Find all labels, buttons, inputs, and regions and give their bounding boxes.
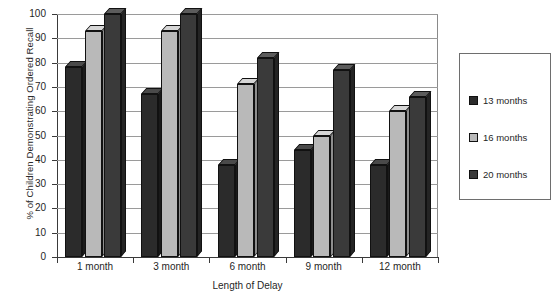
x-axis-title: Length of Delay (57, 280, 438, 291)
bar-face (104, 14, 121, 257)
y-tick-label-10: 10 (12, 226, 46, 237)
bar-side (197, 8, 202, 257)
bar (333, 70, 350, 257)
y-tick-label-100: 100 (12, 8, 46, 19)
bar-side (121, 8, 126, 257)
y-tick-label-0: 0 (12, 251, 46, 262)
bar (409, 97, 426, 257)
bar-group (141, 14, 197, 257)
bar-group (218, 14, 274, 257)
bar (294, 150, 311, 257)
y-tick-mark-100 (52, 14, 57, 15)
bar (218, 165, 235, 257)
bar (85, 31, 102, 257)
legend-swatch (469, 96, 478, 105)
bar-face (294, 150, 311, 257)
bar-side (274, 52, 279, 257)
y-tick-mark-70 (52, 87, 57, 88)
bar-face (65, 67, 82, 257)
bar (161, 31, 178, 257)
bar-group (65, 14, 121, 257)
y-tick-mark-20 (52, 208, 57, 209)
bar (180, 14, 197, 257)
bar-face (389, 111, 406, 257)
y-tick-label-50: 50 (12, 129, 46, 140)
bar-face (218, 165, 235, 257)
bar-face (257, 58, 274, 257)
bar-side (426, 91, 431, 257)
y-tick-label-20: 20 (12, 202, 46, 213)
bar-face (313, 136, 330, 258)
legend-label: 16 months (483, 132, 527, 143)
bar (389, 111, 406, 257)
bar (237, 84, 254, 257)
plot-area (57, 14, 438, 257)
x-tick-label-4: 12 month (355, 261, 445, 272)
bar-chart-figure: % of Children Demonstrating Ordered Reca… (0, 0, 560, 300)
bar-face (141, 94, 158, 257)
bar-side (350, 64, 355, 257)
y-tick-mark-80 (52, 63, 57, 64)
bar-face (161, 31, 178, 257)
bar (370, 165, 387, 257)
legend-swatch (469, 133, 478, 142)
y-tick-mark-90 (52, 38, 57, 39)
bar (104, 14, 121, 257)
legend: 13 months16 months20 months (459, 53, 551, 200)
bar (257, 58, 274, 257)
bar (313, 136, 330, 258)
bar-face (237, 84, 254, 257)
y-tick-mark-40 (52, 160, 57, 161)
y-tick-mark-10 (52, 233, 57, 234)
bar-face (409, 97, 426, 257)
y-tick-label-30: 30 (12, 178, 46, 189)
bar-face (180, 14, 197, 257)
bar-face (370, 165, 387, 257)
bar (65, 67, 82, 257)
y-tick-mark-60 (52, 111, 57, 112)
gridline-0 (57, 257, 438, 258)
bar (141, 94, 158, 257)
bar-group (370, 14, 426, 257)
bar-group (294, 14, 350, 257)
legend-label: 13 months (483, 95, 527, 106)
legend-swatch (469, 170, 478, 179)
legend-item: 13 months (469, 95, 527, 106)
legend-item: 16 months (469, 132, 527, 143)
legend-label: 20 months (483, 169, 527, 180)
y-tick-label-70: 70 (12, 80, 46, 91)
y-tick-mark-30 (52, 184, 57, 185)
y-tick-label-80: 80 (12, 56, 46, 67)
bar-face (333, 70, 350, 257)
y-tick-label-90: 90 (12, 32, 46, 43)
y-tick-mark-50 (52, 136, 57, 137)
y-tick-label-60: 60 (12, 105, 46, 116)
bar-face (85, 31, 102, 257)
y-tick-label-40: 40 (12, 153, 46, 164)
legend-item: 20 months (469, 169, 527, 180)
